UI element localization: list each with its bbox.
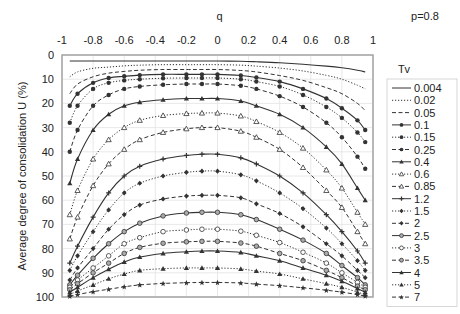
marker-icon <box>324 96 328 100</box>
marker-icon <box>184 240 189 245</box>
marker-icon <box>355 275 360 280</box>
legend-label: 2 <box>414 217 420 229</box>
marker-icon <box>301 87 305 91</box>
marker-icon <box>137 221 142 226</box>
y-tick-label: 60 <box>42 194 54 206</box>
marker-icon <box>400 246 404 250</box>
x-axis-label: q <box>216 10 222 22</box>
marker-icon <box>75 128 79 132</box>
y-tick-label: 40 <box>42 146 54 158</box>
marker-icon <box>122 74 126 78</box>
marker-icon <box>106 76 110 80</box>
marker-icon <box>138 84 142 88</box>
marker-icon <box>215 82 219 86</box>
marker-icon <box>68 104 72 108</box>
marker-icon <box>161 214 166 219</box>
legend-label: 0.25 <box>414 144 435 156</box>
marker-icon <box>254 87 258 91</box>
marker-icon <box>277 227 282 232</box>
x-tick-label: 0.8 <box>334 34 349 46</box>
legend-label: 0.6 <box>414 168 429 180</box>
marker-icon <box>254 233 259 238</box>
marker-icon <box>91 104 95 108</box>
marker-icon <box>161 76 165 80</box>
legend-label: 0.02 <box>414 94 435 106</box>
y-axis-label: Average degree of consolidation U (%) <box>16 82 28 271</box>
y-tick-label: 80 <box>42 243 54 255</box>
x-tick-label: 0.2 <box>241 34 256 46</box>
marker-icon <box>301 105 305 109</box>
marker-icon <box>106 241 111 246</box>
marker-icon <box>137 245 142 250</box>
marker-icon <box>68 150 72 154</box>
marker-icon <box>239 212 244 217</box>
marker-icon <box>355 130 359 134</box>
marker-icon <box>106 93 110 97</box>
marker-icon <box>340 135 344 139</box>
marker-icon <box>301 93 305 97</box>
chart: -1-0.8-0.6-0.4-0.200.20.40.60.8101020304… <box>0 0 460 314</box>
marker-icon <box>400 148 404 152</box>
legend-label: 3.5 <box>414 254 429 266</box>
x-tick-label: -1 <box>57 34 67 46</box>
marker-icon <box>161 83 165 87</box>
legend-label: 4 <box>414 267 420 279</box>
marker-icon <box>106 261 111 266</box>
marker-icon <box>278 94 282 98</box>
marker-icon <box>184 228 189 233</box>
legend-label: 0.1 <box>414 119 429 131</box>
marker-icon <box>239 229 244 234</box>
marker-icon <box>161 229 166 234</box>
marker-icon <box>215 227 220 232</box>
y-tick-label: 30 <box>42 122 54 134</box>
marker-icon <box>122 78 126 82</box>
marker-icon <box>200 76 204 80</box>
legend-label: 0.15 <box>414 131 435 143</box>
marker-icon <box>239 77 243 81</box>
y-tick-label: 100 <box>36 291 54 303</box>
legend-label: 2.5 <box>414 230 429 242</box>
marker-icon <box>122 251 127 256</box>
marker-icon <box>400 258 404 262</box>
legend-label: 0.4 <box>414 156 429 168</box>
marker-icon <box>215 76 219 80</box>
legend-label: 0.85 <box>414 180 435 192</box>
legend-label: 3 <box>414 242 420 254</box>
x-tick-label: 0 <box>214 34 220 46</box>
y-tick-label: 50 <box>42 170 54 182</box>
marker-icon <box>161 72 165 76</box>
x-tick-label: 1 <box>370 34 376 46</box>
marker-icon <box>122 87 126 91</box>
marker-icon <box>277 251 282 256</box>
marker-icon <box>400 135 404 139</box>
marker-icon <box>239 241 244 246</box>
marker-icon <box>215 210 220 215</box>
marker-icon <box>91 266 96 271</box>
marker-icon <box>277 240 282 245</box>
marker-icon <box>324 251 329 256</box>
marker-icon <box>75 104 79 108</box>
y-tick-label: 90 <box>42 267 54 279</box>
marker-icon <box>122 229 127 234</box>
marker-icon <box>254 79 258 83</box>
marker-icon <box>75 92 79 96</box>
marker-icon <box>106 81 110 85</box>
marker-icon <box>254 217 259 222</box>
x-tick-label: 0.4 <box>272 34 287 46</box>
marker-icon <box>301 258 306 263</box>
marker-icon <box>68 121 72 125</box>
marker-icon <box>91 81 95 85</box>
marker-icon <box>161 241 166 246</box>
marker-icon <box>278 79 282 83</box>
y-tick-label: 70 <box>42 218 54 230</box>
marker-icon <box>184 211 189 216</box>
y-tick-label: 0 <box>48 49 54 61</box>
legend-label: 5 <box>414 279 420 291</box>
marker-icon <box>75 273 80 278</box>
marker-icon <box>324 261 329 266</box>
marker-icon <box>301 250 306 255</box>
marker-icon <box>184 82 188 86</box>
marker-icon <box>254 244 259 249</box>
x-tick-label: -0.6 <box>115 34 134 46</box>
marker-icon <box>355 118 359 122</box>
